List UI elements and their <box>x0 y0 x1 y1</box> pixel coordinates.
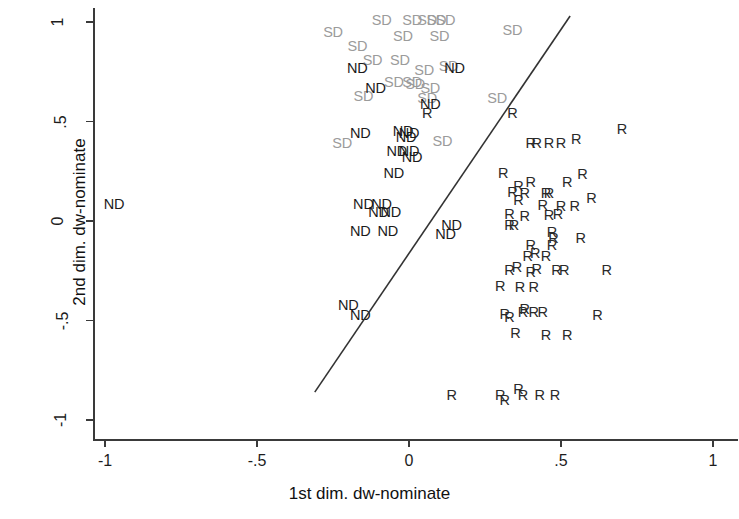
data-point-nd: ND <box>402 150 423 165</box>
data-point-r: R <box>544 136 554 151</box>
x-tick-label: -1 <box>98 452 112 470</box>
data-point-r: R <box>500 393 510 408</box>
data-point-nd: ND <box>347 61 368 76</box>
x-tick-mark <box>104 440 106 447</box>
data-point-r: R <box>535 388 545 403</box>
x-tick-label: 0 <box>405 452 414 470</box>
data-point-r: R <box>446 388 456 403</box>
y-axis-title: 2nd dim. dw-nominate <box>70 72 90 372</box>
data-point-r: R <box>519 209 529 224</box>
data-point-r: R <box>559 263 569 278</box>
data-point-r: R <box>556 136 566 151</box>
data-point-r: R <box>530 246 540 261</box>
y-tick-label: -1 <box>52 413 70 427</box>
data-point-r: R <box>515 279 525 294</box>
x-axis-title: 1st dim. dw-nominate <box>0 484 739 504</box>
data-point-r: R <box>513 193 523 208</box>
data-point-r: R <box>532 136 542 151</box>
data-point-r: R <box>507 105 517 120</box>
x-tick-label: .5 <box>554 452 567 470</box>
y-axis-line <box>93 8 95 440</box>
data-point-nd: ND <box>350 126 371 141</box>
data-point-r: R <box>586 191 596 206</box>
data-point-r: R <box>576 231 586 246</box>
data-point-r: R <box>510 326 520 341</box>
data-point-r: R <box>422 105 432 120</box>
data-point-sd: SD <box>436 13 456 28</box>
y-tick-label: 1 <box>49 18 67 27</box>
data-point-sd: SD <box>390 53 410 68</box>
data-point-sd: SD <box>332 136 352 151</box>
x-tick-mark <box>712 440 714 447</box>
data-point-r: R <box>541 328 551 343</box>
data-point-nd: ND <box>104 197 125 212</box>
data-point-nd: ND <box>384 166 405 181</box>
y-tick-label: 0 <box>49 217 67 226</box>
data-point-r: R <box>617 122 627 137</box>
plot-area: -1-.50.51 1.50-.5-1 SDSDSDSDSDSDSDSDSDSD… <box>0 0 739 519</box>
data-point-r: R <box>498 166 508 181</box>
y-tick-label: .5 <box>52 115 70 128</box>
data-point-nd: ND <box>365 80 386 95</box>
data-point-r: R <box>528 279 538 294</box>
data-point-nd: ND <box>350 224 371 239</box>
data-point-sd: SD <box>393 29 413 44</box>
data-point-r: R <box>601 263 611 278</box>
scatter-plot-figure: -1-.50.51 1.50-.5-1 SDSDSDSDSDSDSDSDSDSD… <box>0 0 739 519</box>
data-point-r: R <box>538 304 548 319</box>
data-point-nd: ND <box>444 61 465 76</box>
data-point-r: R <box>562 328 572 343</box>
data-point-nd: ND <box>350 307 371 322</box>
data-point-r: R <box>495 278 505 293</box>
separating-line <box>0 0 739 519</box>
data-point-r: R <box>571 132 581 147</box>
data-point-sd: SD <box>372 13 392 28</box>
data-point-r: R <box>504 263 514 278</box>
data-point-r: R <box>562 175 572 190</box>
data-point-r: R <box>504 309 514 324</box>
data-point-nd: ND <box>435 227 456 242</box>
data-point-r: R <box>570 199 580 214</box>
data-point-sd: SD <box>502 23 522 38</box>
data-point-sd: SD <box>430 29 450 44</box>
x-tick-mark <box>256 440 258 447</box>
data-point-r: R <box>553 207 563 222</box>
y-tick-mark <box>86 419 93 421</box>
data-point-r: R <box>550 388 560 403</box>
data-point-r: R <box>518 304 528 319</box>
x-tick-label: -.5 <box>248 452 267 470</box>
x-tick-mark <box>560 440 562 447</box>
data-point-sd: SD <box>433 134 453 149</box>
data-point-nd: ND <box>377 224 398 239</box>
data-point-r: R <box>577 167 587 182</box>
x-tick-label: 1 <box>709 452 718 470</box>
data-point-r: R <box>518 388 528 403</box>
data-point-r: R <box>509 218 519 233</box>
data-point-r: R <box>541 249 551 264</box>
y-tick-mark <box>86 21 93 23</box>
data-point-nd: ND <box>380 205 401 220</box>
data-point-r: R <box>532 262 542 277</box>
x-axis-line <box>93 439 738 441</box>
x-tick-mark <box>408 440 410 447</box>
data-point-sd: SD <box>487 90 507 105</box>
data-point-sd: SD <box>384 74 404 89</box>
data-point-sd: SD <box>323 25 343 40</box>
data-point-r: R <box>592 307 602 322</box>
